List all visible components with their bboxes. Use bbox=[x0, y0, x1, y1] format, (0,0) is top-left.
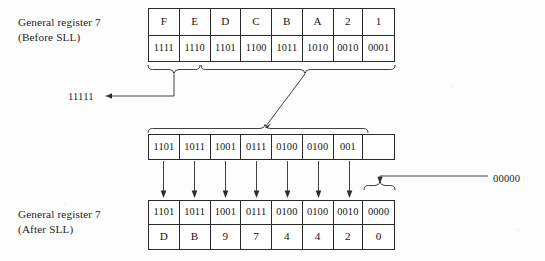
brace-shifted-out bbox=[148, 65, 200, 74]
after-binary-cell: 0100 bbox=[272, 201, 303, 224]
intermediate-cell: 1101 bbox=[149, 135, 180, 159]
intermediate-cell: 001 bbox=[334, 135, 364, 159]
before-sll-register: F E D C B A 2 1 1111 1110 1101 1100 1011… bbox=[148, 8, 395, 62]
brace-intermediate-bits bbox=[148, 125, 368, 134]
after-register-label-line1: General register 7 bbox=[18, 208, 101, 222]
bit-alignment-arrows bbox=[161, 161, 353, 198]
before-hex-cell: A bbox=[303, 9, 334, 35]
after-binary-row: 1101 1011 1001 0111 0100 0100 0010 0000 bbox=[149, 201, 394, 225]
after-hex-cell: 7 bbox=[241, 225, 272, 249]
zero-fill-connector-arrow bbox=[377, 176, 488, 184]
after-binary-cell: 0010 bbox=[334, 201, 364, 224]
before-register-label-line2: (Before SLL) bbox=[18, 31, 80, 45]
after-binary-cell: 1011 bbox=[180, 201, 211, 224]
after-binary-cell: 0000 bbox=[363, 201, 394, 224]
brace-retained-bits bbox=[201, 65, 395, 74]
diagram-canvas: General register 7 (Before SLL) General … bbox=[0, 0, 545, 261]
before-hex-cell: C bbox=[241, 9, 272, 35]
shifted-out-connector-arrow bbox=[106, 74, 174, 99]
before-binary-cell: 1011 bbox=[272, 36, 303, 61]
before-hex-cell: E bbox=[180, 9, 211, 35]
retained-bits-diagonal-arrow bbox=[265, 74, 305, 128]
before-hex-row: F E D C B A 2 1 bbox=[149, 9, 394, 36]
before-hex-cell: 1 bbox=[363, 9, 394, 35]
before-binary-cell: 1101 bbox=[211, 36, 242, 61]
after-binary-cell: 0111 bbox=[241, 201, 272, 224]
before-binary-cell: 1010 bbox=[303, 36, 334, 61]
before-binary-row: 1111 1110 1101 1100 1011 1010 0010 0001 bbox=[149, 36, 394, 61]
after-binary-cell: 1101 bbox=[149, 201, 180, 224]
zero-fill-bits-label: 00000 bbox=[493, 172, 520, 186]
intermediate-cell: 1011 bbox=[180, 135, 211, 159]
intermediate-shifted-register: 1101 1011 1001 0111 0100 0100 001 bbox=[148, 134, 395, 160]
after-hex-cell: 4 bbox=[303, 225, 334, 249]
after-hex-cell: 4 bbox=[272, 225, 303, 249]
before-binary-cell: 0010 bbox=[334, 36, 364, 61]
before-hex-cell: B bbox=[272, 9, 303, 35]
before-hex-cell: 2 bbox=[334, 9, 364, 35]
intermediate-row: 1101 1011 1001 0111 0100 0100 001 bbox=[149, 135, 394, 159]
after-hex-cell: 2 bbox=[334, 225, 364, 249]
before-binary-cell: 1110 bbox=[180, 36, 211, 61]
intermediate-cell: 0100 bbox=[303, 135, 334, 159]
after-hex-cell: D bbox=[149, 225, 180, 249]
intermediate-empty-cell bbox=[363, 135, 394, 159]
before-binary-cell: 1111 bbox=[149, 36, 180, 61]
intermediate-cell: 0111 bbox=[241, 135, 272, 159]
intermediate-cell: 0100 bbox=[272, 135, 303, 159]
after-binary-cell: 1001 bbox=[211, 201, 242, 224]
before-binary-cell: 0001 bbox=[363, 36, 394, 61]
after-hex-cell: B bbox=[180, 225, 211, 249]
after-sll-register: 1101 1011 1001 0111 0100 0100 0010 0000 … bbox=[148, 200, 395, 250]
after-hex-row: D B 9 7 4 4 2 0 bbox=[149, 225, 394, 249]
before-hex-cell: D bbox=[211, 9, 242, 35]
after-register-label-line2: (After SLL) bbox=[18, 223, 73, 237]
before-binary-cell: 1100 bbox=[241, 36, 272, 61]
before-register-label-line1: General register 7 bbox=[18, 16, 101, 30]
shifted-out-bits-label: 11111 bbox=[68, 90, 94, 104]
before-hex-cell: F bbox=[149, 9, 180, 35]
after-hex-cell: 0 bbox=[363, 225, 394, 249]
intermediate-cell: 1001 bbox=[211, 135, 242, 159]
brace-zero-fill bbox=[364, 182, 395, 191]
after-binary-cell: 0100 bbox=[303, 201, 334, 224]
after-hex-cell: 9 bbox=[211, 225, 242, 249]
